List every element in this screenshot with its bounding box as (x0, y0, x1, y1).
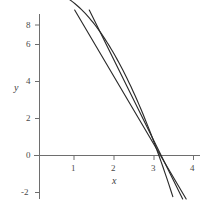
y-axis-label: y (14, 83, 18, 93)
y-tick-label-minus2: -2 (21, 188, 29, 197)
tangent-line-left (89, 10, 182, 199)
y-tick-label-2: 2 (26, 114, 31, 123)
x-tick-label-4: 4 (190, 164, 195, 173)
y-tick-label-4: 4 (26, 77, 31, 86)
x-tick-label-3: 3 (151, 164, 156, 173)
y-tick-label-0: 0 (26, 151, 31, 160)
tangent-line-right (75, 10, 187, 199)
x-axis-label: x (112, 176, 116, 186)
x-tick-label-1: 1 (71, 164, 76, 173)
y-tick-label-6: 6 (26, 40, 31, 49)
y-axis-ticks (35, 25, 40, 193)
chart-figure: 8 6 4 2 0 -2 1 2 3 4 y x (0, 0, 204, 205)
x-tick-label-2: 2 (111, 164, 116, 173)
y-tick-label-8: 8 (26, 21, 31, 30)
x-axis-ticks (74, 156, 194, 161)
plot-canvas (0, 0, 204, 205)
